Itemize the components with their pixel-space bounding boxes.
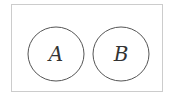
venn-diagram: A B [0, 0, 173, 98]
set-a-label: A [47, 42, 63, 66]
set-b-label: B [113, 42, 129, 66]
universe-rectangle [12, 5, 163, 92]
